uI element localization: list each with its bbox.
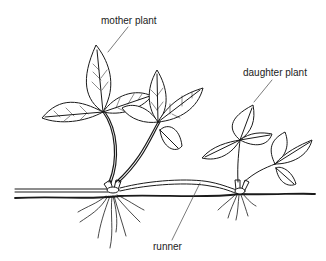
daughter-leaf-cluster (202, 105, 312, 185)
diagram-canvas: mother plant daughter plant runner (0, 0, 326, 261)
daughter-leader-line (254, 80, 272, 102)
label-daughter-plant: daughter plant (243, 68, 307, 78)
runner-leader-line (172, 183, 200, 240)
label-runner: runner (153, 242, 182, 252)
mother-leader-line (108, 27, 128, 52)
daughter-stems (238, 140, 275, 182)
daughter-crown (235, 180, 249, 194)
runner-stem (15, 180, 240, 194)
plant-illustration (0, 0, 326, 261)
ground-line (15, 194, 315, 198)
label-mother-plant: mother plant (101, 16, 157, 26)
mother-leaf-cluster-right (122, 70, 203, 149)
mother-roots (78, 195, 144, 248)
daughter-roots (218, 194, 256, 220)
